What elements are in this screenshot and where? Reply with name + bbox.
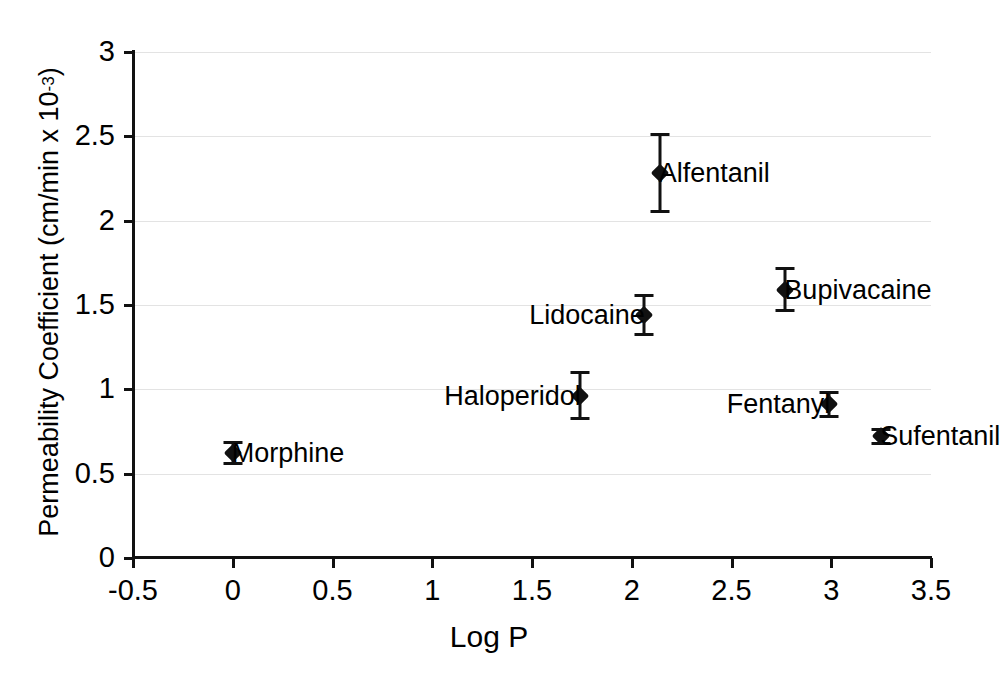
gridline — [133, 221, 931, 222]
error-bar-cap-lower — [570, 417, 589, 420]
y-tick — [124, 304, 133, 307]
point-label: Morphine — [232, 440, 345, 467]
x-tick — [930, 558, 933, 568]
y-tick — [124, 473, 133, 476]
x-axis-title: Log P — [0, 622, 978, 652]
x-tick-label: 1.5 — [477, 576, 587, 605]
x-tick-label: 2 — [577, 576, 687, 605]
error-bar-cap-upper — [650, 133, 669, 136]
x-tick — [731, 558, 734, 568]
figure-caption — [0, 670, 978, 678]
point-label: Sufentanil — [880, 423, 1000, 450]
y-tick-label: 0.5 — [45, 459, 115, 488]
x-tick-label: 0.5 — [278, 576, 388, 605]
error-bar-cap-lower — [776, 309, 795, 312]
gridline — [133, 474, 931, 475]
x-tick — [232, 558, 235, 568]
point-label: Lidocaine — [529, 301, 645, 328]
point-label: Alfentanil — [659, 160, 770, 187]
x-tick — [332, 558, 335, 568]
x-tick — [431, 558, 434, 568]
data-point: Haloperidol — [565, 371, 595, 420]
x-tick-label: -0.5 — [78, 576, 188, 605]
point-label: Haloperidol — [444, 382, 581, 409]
x-tick-label: 3.5 — [876, 576, 986, 605]
error-bar-cap-upper — [570, 371, 589, 374]
y-tick-label: 1.5 — [45, 290, 115, 319]
x-tick — [631, 558, 634, 568]
x-tick — [531, 558, 534, 568]
x-tick-label: 1 — [377, 576, 487, 605]
data-point: Fentanyl — [814, 391, 844, 418]
y-tick — [124, 51, 133, 54]
gridline — [133, 52, 931, 53]
point-label: Fentanyl — [727, 391, 831, 418]
y-tick-label: 1 — [45, 374, 115, 403]
data-point: Lidocaine — [629, 294, 659, 336]
data-point: Sufentanil — [866, 428, 896, 445]
x-tick-label: 0 — [178, 576, 288, 605]
y-tick — [124, 388, 133, 391]
y-tick — [124, 135, 133, 138]
x-tick — [830, 558, 833, 568]
x-tick — [132, 558, 135, 568]
point-label: Bupivacaine — [784, 276, 931, 303]
error-bar-cap-upper — [776, 267, 795, 270]
y-tick — [124, 220, 133, 223]
y-axis-title-suffix: ) — [34, 67, 65, 76]
data-point: Bupivacaine — [770, 267, 800, 313]
gridline — [133, 136, 931, 137]
error-bar-cap-lower — [650, 210, 669, 213]
y-tick-label: 2.5 — [45, 121, 115, 150]
y-tick-label: 3 — [45, 37, 115, 66]
data-point: Morphine — [218, 441, 248, 465]
y-tick-label: 2 — [45, 206, 115, 235]
data-point: Alfentanil — [645, 133, 675, 212]
error-bar-cap-upper — [634, 294, 653, 297]
x-tick-label: 3 — [776, 576, 886, 605]
y-tick-label: 0 — [45, 543, 115, 572]
error-bar-cap-lower — [634, 333, 653, 336]
x-tick-label: 2.5 — [677, 576, 787, 605]
